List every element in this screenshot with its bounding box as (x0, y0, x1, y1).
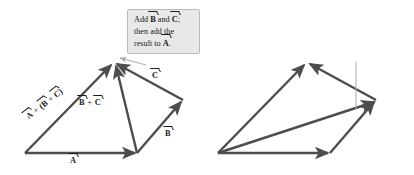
callout-leader-line (120, 58, 146, 65)
operator-symbol: + (85, 97, 95, 107)
label-b-plus-c: B + C (79, 97, 101, 107)
vector-c-arrow (117, 64, 183, 100)
vector-b-plus-c-arrow (116, 66, 137, 153)
text-run: then add the (134, 27, 174, 36)
right-vector-diagram (207, 0, 414, 175)
text-run: Add (134, 15, 150, 24)
vector-symbol-c: C (152, 71, 158, 80)
vector-c-arrow (310, 64, 376, 100)
vector-symbol-b: B (165, 129, 171, 138)
callout-left-line-3: result to A. (134, 38, 194, 50)
text-run: and (156, 15, 172, 24)
text-run: result to (134, 39, 163, 48)
vector-addition-figure: Add B and C; then add the result to A. A… (0, 0, 414, 175)
text-run: ; (178, 15, 180, 24)
callout-left: Add B and C; then add the result to A. (127, 9, 200, 54)
vector-symbol-b: B (150, 14, 156, 26)
text-run: . (169, 39, 171, 48)
label-vector-c: C (152, 70, 158, 80)
vector-symbol-b: B (79, 98, 85, 107)
vector-symbol-a: A (163, 38, 169, 50)
label-vector-a: A (70, 155, 76, 165)
vector-symbol-a: A (70, 156, 76, 165)
callout-left-line-1: Add B and C; (134, 14, 194, 26)
vector-symbol-c: C (95, 98, 101, 107)
label-vector-b: B (165, 128, 171, 138)
vector-b-arrow (137, 102, 181, 153)
vector-symbol-c: C (172, 14, 178, 26)
callout-left-line-2: then add the (134, 26, 194, 38)
panel-left-associative: Add B and C; then add the result to A. A… (0, 0, 207, 175)
panel-right-associative: Add A and B; then add C to the result. (… (207, 0, 414, 175)
